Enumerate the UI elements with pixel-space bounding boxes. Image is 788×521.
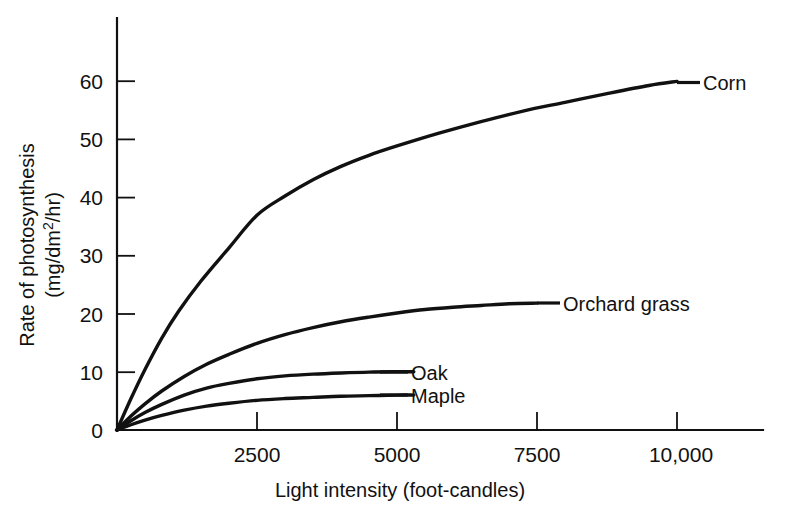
x-axis-title: Light intensity (foot-candles) xyxy=(275,479,525,501)
x-tick-label-10000: 10,000 xyxy=(649,443,713,466)
y-tick-label-10: 10 xyxy=(80,361,103,384)
y-tick-label-50: 50 xyxy=(80,128,103,151)
series-curve-maple xyxy=(117,395,414,430)
y-axis-title-units-suffix: /hr) xyxy=(42,192,64,222)
y-tick-label-40: 40 xyxy=(80,186,103,209)
y-tick-label-20: 20 xyxy=(80,303,103,326)
y-axis-title-units-prefix: (mg/dm xyxy=(42,230,64,298)
series-curve-corn xyxy=(117,81,677,430)
series-label-orchard-grass: Orchard grass xyxy=(563,293,690,315)
y-tick-label-60: 60 xyxy=(80,70,103,93)
series-label-maple: Maple xyxy=(411,385,465,407)
series-label-corn: Corn xyxy=(703,72,746,94)
y-axis-title-units-superscript: 2 xyxy=(40,222,56,230)
x-axis-ticks xyxy=(257,412,677,430)
series-label-oak: Oak xyxy=(411,362,449,384)
y-axis-title-line2: (mg/dm2/hr) xyxy=(40,192,64,298)
x-tick-label-7500: 7500 xyxy=(514,443,561,466)
y-tick-label-30: 30 xyxy=(80,244,103,267)
y-tick-label-0: 0 xyxy=(91,419,103,442)
x-tick-label-2500: 2500 xyxy=(234,443,281,466)
chart-canvas: 60 50 40 30 20 10 0 2500 5000 7500 10,00… xyxy=(0,0,788,521)
x-tick-label-5000: 5000 xyxy=(374,443,421,466)
photosynthesis-light-response-chart: 60 50 40 30 20 10 0 2500 5000 7500 10,00… xyxy=(0,0,788,521)
y-axis-ticks xyxy=(117,81,135,372)
y-axis-title-line1: Rate of photosynthesis xyxy=(16,143,38,346)
